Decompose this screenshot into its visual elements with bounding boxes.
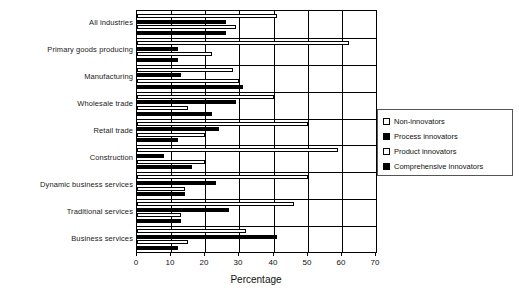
plot-area [136, 10, 377, 253]
category-label: Business services [71, 234, 133, 243]
group-separator [137, 92, 376, 93]
group-separator [137, 199, 376, 200]
bar [137, 52, 212, 56]
bar [137, 31, 226, 35]
group-separator [137, 119, 376, 120]
group-separator [137, 38, 376, 39]
bar-chart: All industriesPrimary goods producingMan… [0, 0, 519, 300]
x-tick-label-70: 70 [365, 258, 385, 268]
category-label: Construction [90, 153, 133, 162]
bar [137, 202, 294, 206]
legend-swatch-comprehensive-innovators [383, 163, 390, 170]
x-axis-line [136, 252, 376, 253]
legend-swatch-product-innovators [383, 148, 390, 155]
group-separator [137, 145, 376, 146]
gridline-30 [239, 11, 240, 253]
bar [137, 127, 219, 131]
bar [137, 208, 229, 212]
x-tick-10 [170, 252, 171, 256]
bar [137, 85, 243, 89]
category-label: Traditional services [67, 207, 133, 216]
x-tick-label-40: 40 [263, 258, 283, 268]
x-tick-label-50: 50 [297, 258, 317, 268]
x-tick-label-20: 20 [194, 258, 214, 268]
bar [137, 133, 205, 137]
legend-item: Process innovators [383, 129, 507, 144]
bar [137, 122, 308, 126]
legend-label-product-innovators: Product innovators [394, 147, 457, 156]
x-tick-70 [375, 252, 376, 256]
legend-item: Product innovators [383, 144, 507, 159]
x-tick-50 [307, 252, 308, 256]
bar [137, 148, 338, 152]
bar [137, 229, 246, 233]
bar [137, 240, 188, 244]
bar [137, 25, 236, 29]
x-tick-40 [273, 252, 274, 256]
bar [137, 14, 277, 18]
bar [137, 79, 239, 83]
legend-label-comprehensive-innovators: Comprehensive innovators [394, 162, 483, 171]
bar [137, 138, 178, 142]
legend-swatch-non-innovators [383, 118, 390, 125]
bar [137, 160, 205, 164]
category-label-column: All industriesPrimary goods producingMan… [0, 0, 133, 252]
group-separator [137, 226, 376, 227]
gridline-40 [274, 11, 275, 253]
bar [137, 219, 181, 223]
bar [137, 187, 185, 191]
x-axis-label: Percentage [136, 274, 376, 285]
x-tick-0 [136, 252, 137, 256]
bar [137, 213, 181, 217]
x-tick-label-0: 0 [126, 258, 146, 268]
legend-label-process-innovators: Process innovators [394, 132, 458, 141]
bar [137, 246, 178, 250]
gridline-50 [308, 11, 309, 253]
group-separator [137, 172, 376, 173]
bar [137, 112, 212, 116]
x-tick-label-60: 60 [331, 258, 351, 268]
legend-label-non-innovators: Non-innovators [394, 117, 445, 126]
category-label: All industries [89, 18, 133, 27]
gridline-20 [205, 11, 206, 253]
bar [137, 192, 185, 196]
category-label: Manufacturing [84, 72, 133, 81]
bar [137, 181, 216, 185]
legend-item: Non-innovators [383, 114, 507, 129]
x-tick-30 [238, 252, 239, 256]
bar [137, 175, 308, 179]
x-tick-label-30: 30 [228, 258, 248, 268]
bar [137, 20, 226, 24]
x-tick-label-10: 10 [160, 258, 180, 268]
bar [137, 41, 349, 45]
category-label: Wholesale trade [77, 99, 133, 108]
category-label: Retail trade [93, 126, 133, 135]
bar [137, 106, 188, 110]
bar [137, 47, 178, 51]
chart-legend: Non-innovators Process innovators Produc… [377, 109, 513, 176]
category-label: Primary goods producing [47, 45, 133, 54]
group-separator [137, 65, 376, 66]
bar [137, 154, 164, 158]
bar [137, 73, 181, 77]
bar [137, 235, 277, 239]
x-tick-20 [204, 252, 205, 256]
x-tick-60 [341, 252, 342, 256]
legend-item: Comprehensive innovators [383, 159, 507, 174]
bar [137, 165, 192, 169]
bar [137, 68, 233, 72]
category-label: Dynamic business services [40, 180, 133, 189]
gridline-60 [342, 11, 343, 253]
legend-swatch-process-innovators [383, 133, 390, 140]
bar [137, 58, 178, 62]
bar [137, 95, 274, 99]
bar [137, 100, 236, 104]
plot-inner [137, 11, 376, 253]
